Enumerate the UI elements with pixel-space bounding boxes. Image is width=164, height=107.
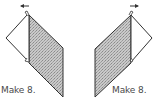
arrow-right-icon bbox=[130, 4, 139, 8]
top-tab bbox=[25, 11, 29, 15]
right-figure-caption: Make 8. bbox=[112, 85, 146, 95]
folded-flap bbox=[131, 15, 152, 62]
right-figure bbox=[95, 4, 152, 97]
folded-flap bbox=[6, 15, 29, 62]
arrow-left-icon bbox=[20, 4, 29, 8]
left-figure bbox=[6, 4, 63, 97]
left-figure-caption: Make 8. bbox=[1, 85, 35, 95]
top-tab bbox=[129, 11, 133, 15]
